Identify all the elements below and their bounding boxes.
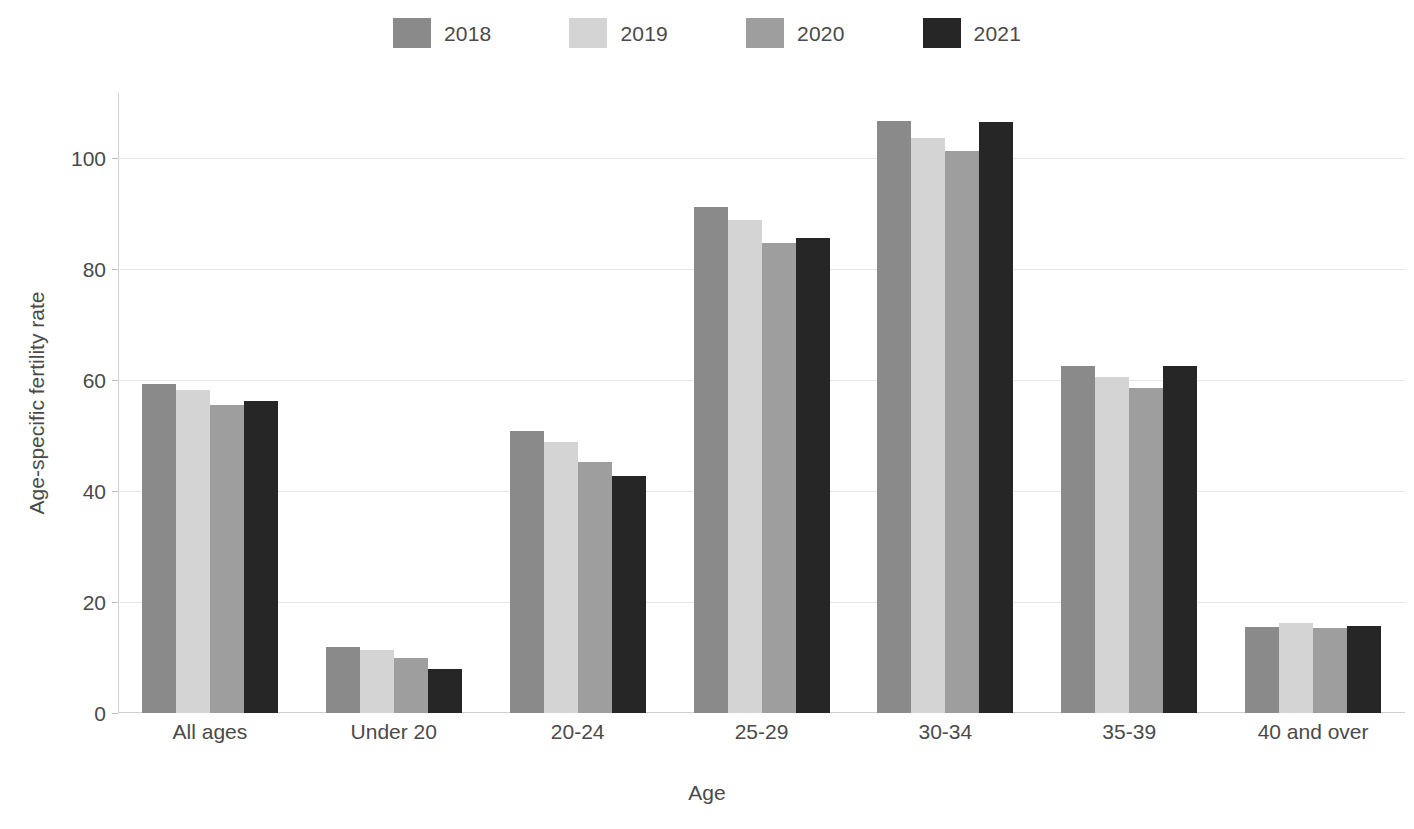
y-axis-title: Age-specific fertility rate	[22, 93, 52, 713]
bars-container	[1061, 93, 1197, 713]
bar-2018-35-39[interactable]	[1061, 366, 1095, 713]
bar-2020-30-34[interactable]	[945, 151, 979, 713]
bar-group-20-24: 20-24	[486, 93, 670, 713]
y-tick-label-60: 60	[62, 370, 106, 391]
bars-container	[326, 93, 462, 713]
bar-2018-all-ages[interactable]	[142, 384, 176, 713]
bars-container	[142, 93, 278, 713]
bar-group-all-ages: All ages	[118, 93, 302, 713]
bar-group-under-20: Under 20	[302, 93, 486, 713]
x-tick-label-under-20: Under 20	[302, 721, 486, 742]
y-tick-label-80: 80	[62, 259, 106, 280]
bar-2021-30-34[interactable]	[979, 122, 1013, 713]
x-tick-label-20-24: 20-24	[486, 721, 670, 742]
bars-container	[510, 93, 646, 713]
bar-2020-40-and-over[interactable]	[1313, 628, 1347, 713]
x-tick-label-25-29: 25-29	[670, 721, 854, 742]
y-tick-mark-0	[112, 713, 118, 714]
bar-2020-all-ages[interactable]	[210, 405, 244, 713]
bar-2020-20-24[interactable]	[578, 462, 612, 713]
bar-2019-under-20[interactable]	[360, 650, 394, 713]
bar-2019-35-39[interactable]	[1095, 377, 1129, 713]
bar-group-25-29: 25-29	[670, 93, 854, 713]
y-tick-label-100: 100	[62, 148, 106, 169]
bar-group-40-and-over: 40 and over	[1221, 93, 1405, 713]
bar-2019-25-29[interactable]	[728, 220, 762, 713]
bar-chart: 2018201920202021 Age-specific fertility …	[0, 0, 1414, 829]
x-tick-label-35-39: 35-39	[1037, 721, 1221, 742]
bars-container	[1245, 93, 1381, 713]
bar-2021-40-and-over[interactable]	[1347, 626, 1381, 713]
bar-group-35-39: 35-39	[1037, 93, 1221, 713]
bar-2018-40-and-over[interactable]	[1245, 627, 1279, 713]
bar-2020-35-39[interactable]	[1129, 388, 1163, 713]
bar-2019-20-24[interactable]	[544, 442, 578, 713]
x-axis-title: Age	[0, 782, 1414, 803]
bar-2019-30-34[interactable]	[911, 138, 945, 713]
bar-2018-under-20[interactable]	[326, 647, 360, 713]
bars-container	[694, 93, 830, 713]
x-tick-label-40-and-over: 40 and over	[1221, 721, 1405, 742]
y-tick-label-0: 0	[62, 703, 106, 724]
bar-group-30-34: 30-34	[853, 93, 1037, 713]
bar-groups: All agesUnder 2020-2425-2930-3435-3940 a…	[118, 93, 1405, 713]
bar-2020-under-20[interactable]	[394, 658, 428, 713]
x-tick-label-30-34: 30-34	[853, 721, 1037, 742]
bar-2019-all-ages[interactable]	[176, 390, 210, 713]
bar-2021-all-ages[interactable]	[244, 401, 278, 713]
bar-2021-under-20[interactable]	[428, 669, 462, 713]
bar-2019-40-and-over[interactable]	[1279, 623, 1313, 713]
bars-container	[877, 93, 1013, 713]
bar-2018-25-29[interactable]	[694, 207, 728, 713]
plot-area: 020406080100 All agesUnder 2020-2425-293…	[118, 93, 1405, 713]
bar-2018-30-34[interactable]	[877, 121, 911, 713]
bar-2021-35-39[interactable]	[1163, 366, 1197, 713]
y-tick-label-40: 40	[62, 481, 106, 502]
bar-2018-20-24[interactable]	[510, 431, 544, 713]
bar-2021-25-29[interactable]	[796, 238, 830, 713]
bar-2020-25-29[interactable]	[762, 243, 796, 713]
y-tick-label-20: 20	[62, 592, 106, 613]
x-tick-label-all-ages: All ages	[118, 721, 302, 742]
bar-2021-20-24[interactable]	[612, 476, 646, 713]
plot-wrapper: Age-specific fertility rate 020406080100…	[0, 0, 1414, 829]
